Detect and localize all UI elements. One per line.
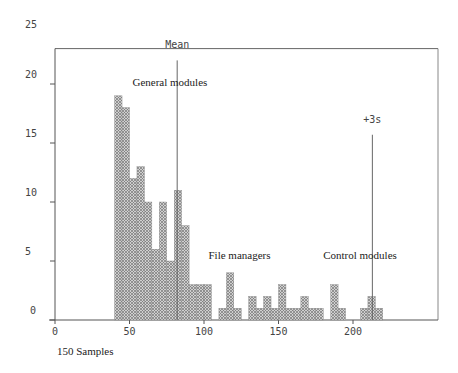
- reference-line-label: Mean: [165, 39, 189, 50]
- histogram-bar: [256, 308, 263, 320]
- histogram-bar: [182, 226, 189, 320]
- histogram-bar: [279, 285, 286, 320]
- histogram-bar: [144, 202, 151, 320]
- histogram-bar: [152, 249, 159, 320]
- plot-frame: [55, 49, 438, 320]
- annotation-label: File managers: [208, 249, 270, 261]
- histogram-bar: [115, 96, 122, 320]
- y-tick-label: 0: [30, 305, 36, 316]
- y-tick-label: 20: [25, 69, 37, 80]
- y-tick-label: 5: [25, 246, 31, 257]
- histogram-bar: [130, 178, 137, 320]
- histogram-bar: [293, 308, 300, 320]
- annotations: General modulesFile managersControl modu…: [132, 76, 396, 260]
- histogram-bar: [167, 261, 174, 320]
- y-axis: 0510152025: [25, 19, 55, 320]
- x-axis-label: 150 Samples: [57, 345, 114, 357]
- histogram-bar: [360, 308, 367, 320]
- histogram-bar: [189, 285, 196, 320]
- histogram-bar: [308, 308, 315, 320]
- histogram-bars: [115, 96, 383, 320]
- histogram-bar: [338, 308, 345, 320]
- annotation-label: General modules: [132, 76, 207, 88]
- histogram-bar: [159, 202, 166, 320]
- histogram-bar: [234, 308, 241, 320]
- y-tick-label: 15: [25, 128, 37, 139]
- histogram-chart: 0510152025 050100150200 Mean+3s General …: [0, 0, 458, 373]
- histogram-bar: [301, 296, 308, 320]
- y-tick-label: 10: [25, 187, 37, 198]
- histogram-bar: [226, 273, 233, 320]
- histogram-bar: [174, 190, 181, 320]
- histogram-bar: [249, 296, 256, 320]
- histogram-bar: [204, 285, 211, 320]
- x-tick-label: 200: [344, 326, 362, 337]
- histogram-bar: [264, 296, 271, 320]
- x-axis: 050100150200: [49, 320, 438, 337]
- x-tick-label: 50: [123, 326, 135, 337]
- histogram-bar: [286, 308, 293, 320]
- x-tick-label: 100: [195, 326, 213, 337]
- histogram-bar: [197, 285, 204, 320]
- histogram-bar: [122, 108, 129, 320]
- histogram-bar: [137, 167, 144, 320]
- histogram-bar: [219, 308, 226, 320]
- annotation-label: Control modules: [323, 249, 397, 261]
- histogram-bar: [271, 308, 278, 320]
- histogram-bar: [368, 296, 375, 320]
- histogram-bar: [316, 308, 323, 320]
- x-tick-label: 0: [52, 326, 58, 337]
- y-tick-label: 25: [25, 19, 37, 30]
- histogram-bar: [331, 285, 338, 320]
- reference-line-label: +3s: [363, 114, 381, 125]
- x-tick-label: 150: [269, 326, 287, 337]
- histogram-bar: [375, 308, 382, 320]
